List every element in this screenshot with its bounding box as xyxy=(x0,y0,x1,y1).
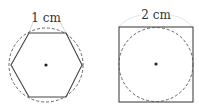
square-figure: 2 cm xyxy=(119,8,193,102)
square-side-label: 2 cm xyxy=(141,8,171,22)
hexagon-side-label: 1 cm xyxy=(31,11,61,25)
diagram: 1 cm 2 cm xyxy=(0,0,199,112)
square-center-dot xyxy=(154,62,157,65)
hexagon-figure: 1 cm xyxy=(9,11,83,102)
label-guide-right xyxy=(171,15,192,27)
label-guide-right xyxy=(60,22,66,33)
hexagon-center-dot xyxy=(44,63,47,66)
label-guide-left xyxy=(119,15,141,27)
